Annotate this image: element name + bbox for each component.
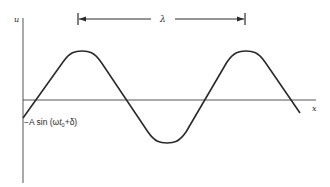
sine-wave [23, 51, 300, 143]
wave-diagram: u x λ −A sin (ωt0+δ) [0, 0, 330, 187]
initial-value-label: −A sin (ωt0+δ) [24, 117, 77, 128]
y-axis-label: u [14, 15, 19, 24]
wavelength-label: λ [159, 14, 166, 24]
arrow-right-icon [237, 17, 244, 22]
x-axis-label: x [312, 104, 317, 113]
wavelength-dimension: λ [78, 13, 245, 25]
arrow-left-icon [79, 17, 86, 22]
